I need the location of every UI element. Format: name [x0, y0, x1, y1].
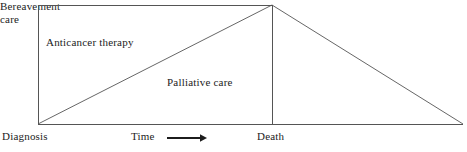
time-arrow-icon: [167, 134, 207, 142]
palliative-care-rising-diagonal: [38, 5, 272, 124]
region-label-palliative-care: Palliative care: [167, 76, 233, 89]
axis-label-death: Death: [257, 130, 284, 143]
region-label-anticancer-therapy: Anticancer therapy: [46, 36, 134, 49]
palliative-care-continuum-diagram: [0, 0, 467, 152]
axis-label-time: Time: [131, 130, 155, 143]
axis-label-diagnosis: Diagnosis: [2, 130, 48, 143]
diagram-canvas: Anticancer therapy Palliative care Berea…: [0, 0, 467, 152]
bereavement-care-descending-diagonal: [272, 5, 463, 124]
